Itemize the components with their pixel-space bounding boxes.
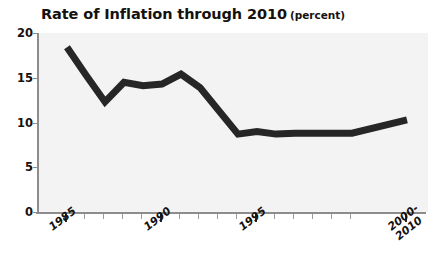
inflation-line-series [39,33,428,212]
plot-area [37,33,428,212]
inflation-chart: Rate of Inflation through 2010(percent) … [0,0,437,261]
x-tick-1999 [331,214,332,219]
chart-title: Rate of Inflation through 2010(percent) [41,6,345,22]
x-tick-1998 [312,214,313,219]
x-tick-1996 [274,214,275,219]
y-tick-0 [33,212,37,213]
x-tick-1994 [236,214,237,219]
x-tick-2000 [350,214,351,219]
y-label-15: 15 [5,73,33,85]
y-tick-10 [33,123,37,124]
y-tick-15 [33,78,37,79]
x-tick-1987 [103,214,104,219]
x-tick-1993 [217,214,218,219]
y-tick-20 [33,33,37,34]
data-line-path [67,47,407,134]
x-tick-1997 [293,214,294,219]
x-tick-1989 [141,214,142,219]
x-tick-1991 [179,214,180,219]
y-label-0: 0 [5,207,33,219]
x-tick-1988 [122,214,123,219]
y-tick-5 [33,167,37,168]
x-axis-line [36,212,426,214]
y-label-10: 10 [5,118,33,130]
y-axis-labels: 20 15 10 5 0 [0,0,33,261]
x-tick-1992 [198,214,199,219]
y-label-5: 5 [5,162,33,174]
y-label-20: 20 [5,28,33,40]
chart-title-main: Rate of Inflation through 2010 [41,6,287,22]
x-tick-1986 [84,214,85,219]
chart-title-unit: (percent) [290,9,345,21]
